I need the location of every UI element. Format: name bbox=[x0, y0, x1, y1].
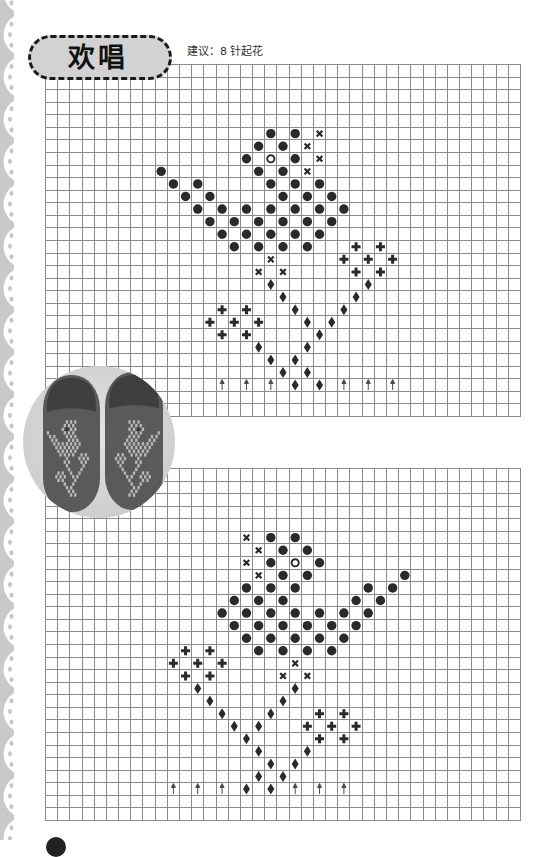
slipper-stitch bbox=[64, 482, 66, 485]
up-arrow-icon bbox=[342, 784, 346, 795]
diamond-icon bbox=[194, 683, 201, 694]
slipper-stitch bbox=[137, 457, 139, 460]
knitting-chart-bottom bbox=[45, 468, 522, 822]
diamond-icon bbox=[255, 342, 262, 353]
slipper-stitch bbox=[122, 468, 124, 471]
filled-circle-icon bbox=[266, 533, 275, 542]
filled-circle-icon bbox=[254, 646, 263, 655]
slipper-stitch bbox=[146, 442, 148, 445]
slipper-stitch bbox=[74, 420, 76, 423]
slipper-stitch bbox=[57, 471, 59, 474]
slipper-stitch bbox=[133, 471, 135, 474]
filled-circle-icon bbox=[278, 621, 287, 630]
slipper-stitch bbox=[128, 493, 130, 496]
slipper-stitch bbox=[135, 460, 137, 463]
slipper-stitch bbox=[53, 442, 55, 445]
plus-icon bbox=[254, 318, 263, 327]
filled-circle-icon bbox=[303, 217, 312, 226]
slipper-stitch bbox=[142, 450, 144, 453]
slipper-stitch bbox=[142, 442, 144, 445]
slipper-stitch bbox=[64, 453, 66, 456]
diamond-icon bbox=[292, 380, 299, 391]
slipper-stitch bbox=[74, 450, 76, 453]
slipper-stitch bbox=[62, 442, 64, 445]
diamond-icon bbox=[353, 292, 360, 303]
filled-circle-icon bbox=[327, 646, 336, 655]
slipper-stitch bbox=[131, 431, 133, 434]
grid-lines bbox=[46, 469, 521, 821]
slipper-stitch bbox=[135, 468, 137, 471]
slipper-stitch bbox=[140, 446, 142, 449]
slipper-stitch bbox=[144, 446, 146, 449]
filled-circle-icon bbox=[266, 204, 275, 213]
plus-icon bbox=[339, 255, 348, 264]
slipper-stitch bbox=[140, 460, 142, 463]
slipper-stitch bbox=[128, 435, 130, 438]
plus-icon bbox=[205, 671, 214, 680]
diamond-icon bbox=[267, 279, 274, 290]
filled-circle-icon bbox=[364, 583, 373, 592]
filled-circle-icon bbox=[230, 242, 239, 251]
slipper-stitch bbox=[149, 475, 151, 478]
slipper-stitch bbox=[80, 453, 82, 456]
slipper-stitch bbox=[135, 431, 137, 434]
slipper-stitch bbox=[64, 475, 66, 478]
filled-circle-icon bbox=[315, 634, 324, 643]
slipper-stitch bbox=[72, 482, 74, 485]
slipper-stitch bbox=[68, 490, 70, 493]
slipper-stitch bbox=[74, 442, 76, 445]
cross-mark-icon bbox=[256, 547, 262, 553]
slipper-stitch bbox=[124, 471, 126, 474]
slipper-stitch bbox=[62, 428, 64, 431]
filled-circle-icon bbox=[327, 621, 336, 630]
slipper-stitch bbox=[64, 460, 66, 463]
diamond-icon bbox=[304, 317, 311, 328]
plus-icon bbox=[352, 267, 361, 276]
page-number-tab bbox=[46, 837, 66, 857]
filled-circle-icon bbox=[205, 192, 214, 201]
slipper-stitch bbox=[122, 453, 124, 456]
slipper-stitch bbox=[83, 457, 85, 460]
filled-circle-icon bbox=[290, 230, 299, 239]
plus-icon bbox=[181, 646, 190, 655]
slipper-stitch bbox=[137, 450, 139, 453]
slipper-stitch bbox=[68, 453, 70, 456]
slipper-photo-image bbox=[23, 366, 175, 518]
slipper-stitch bbox=[70, 493, 72, 496]
filled-circle-icon bbox=[193, 204, 202, 213]
plus-icon bbox=[218, 305, 227, 314]
open-circle-icon bbox=[267, 155, 274, 162]
filled-circle-icon bbox=[290, 204, 299, 213]
slipper-stitch bbox=[140, 482, 142, 485]
filled-circle-icon bbox=[376, 596, 385, 605]
slipper-stitch bbox=[55, 475, 57, 478]
filled-circle-icon bbox=[230, 621, 239, 630]
cross-mark-icon bbox=[256, 269, 262, 275]
slipper-stitch bbox=[135, 424, 137, 427]
slipper-stitch bbox=[131, 453, 133, 456]
filled-circle-icon bbox=[266, 634, 275, 643]
up-arrow-icon bbox=[220, 380, 224, 391]
slipper-stitch bbox=[135, 439, 137, 442]
filled-circle-icon bbox=[290, 583, 299, 592]
filled-circle-icon bbox=[351, 621, 360, 630]
slipper-stitch bbox=[137, 420, 139, 423]
cross-mark-icon bbox=[256, 573, 262, 579]
knitting-chart-top bbox=[45, 64, 522, 418]
slipper-stitch bbox=[126, 446, 128, 449]
filled-circle-icon bbox=[266, 583, 275, 592]
filled-circle-icon bbox=[278, 192, 287, 201]
slipper-stitch bbox=[78, 442, 80, 445]
diamond-icon bbox=[280, 292, 287, 303]
plus-icon bbox=[242, 330, 251, 339]
filled-circle-icon bbox=[193, 179, 202, 188]
diamond-icon bbox=[206, 696, 213, 707]
slipper-stitch bbox=[135, 446, 137, 449]
plus-icon bbox=[339, 709, 348, 718]
plus-icon bbox=[376, 242, 385, 251]
filled-circle-icon bbox=[217, 230, 226, 239]
filled-circle-icon bbox=[278, 596, 287, 605]
diamond-icon bbox=[328, 317, 335, 328]
plus-icon bbox=[218, 659, 227, 668]
filled-circle-icon bbox=[290, 608, 299, 617]
